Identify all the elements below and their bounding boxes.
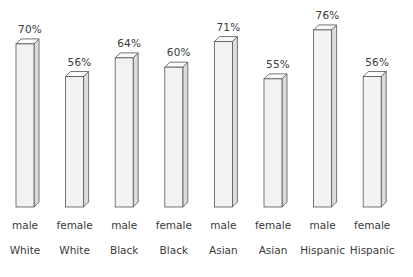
- bar-group: [66, 72, 89, 207]
- bar-side-face: [183, 62, 188, 207]
- bar-front-face: [214, 42, 232, 207]
- bar-group: [214, 37, 237, 207]
- tick-label-race: Hispanic: [340, 244, 404, 256]
- bar-front-face: [115, 58, 133, 207]
- bar-group: [16, 39, 39, 207]
- bar-group: [264, 74, 287, 207]
- bar-front-face: [363, 77, 381, 207]
- plot-area: 70%maleWhite56%femaleWhite64%maleBlack60…: [0, 0, 413, 277]
- bar-front-face: [314, 30, 332, 207]
- bar-front-face: [264, 79, 282, 207]
- bar-group: [314, 25, 337, 207]
- bar-side-face: [282, 74, 287, 207]
- bar-value-label: 64%: [117, 37, 141, 49]
- bar-side-face: [84, 72, 89, 207]
- tick-label-gender: female: [342, 219, 402, 231]
- bar-value-label: 60%: [167, 46, 191, 58]
- bar-group: [165, 62, 188, 207]
- bar-value-label: 70%: [18, 23, 42, 35]
- bar-group: [363, 72, 386, 207]
- bar-chart: 70%maleWhite56%femaleWhite64%maleBlack60…: [0, 0, 413, 277]
- bar-value-label: 55%: [266, 58, 290, 70]
- bar-side-face: [381, 72, 386, 207]
- bar-value-label: 71%: [216, 21, 240, 33]
- bar-value-label: 56%: [68, 56, 92, 68]
- bar-front-face: [16, 44, 34, 207]
- bar-side-face: [133, 53, 138, 207]
- bars-canvas: [0, 0, 413, 277]
- bar-front-face: [165, 67, 183, 207]
- bar-value-label: 76%: [316, 9, 340, 21]
- bar-group: [115, 53, 138, 207]
- bar-side-face: [34, 39, 39, 207]
- bar-side-face: [332, 25, 337, 207]
- bar-front-face: [66, 77, 84, 207]
- bar-side-face: [232, 37, 237, 207]
- bar-value-label: 56%: [365, 56, 389, 68]
